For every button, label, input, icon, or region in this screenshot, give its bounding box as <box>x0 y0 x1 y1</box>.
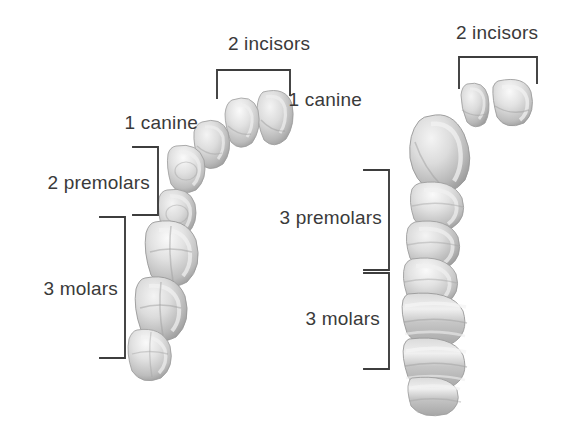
tooth-left-premolar-1 <box>167 145 205 193</box>
tooth-right-incisor-1 <box>461 83 489 127</box>
tooth-right-canine <box>410 115 470 193</box>
label-right-incisors: 2 incisors <box>444 22 550 44</box>
label-left-incisors: 2 incisors <box>216 33 322 55</box>
label-left-molars: 3 molars <box>28 278 118 300</box>
tooth-left-molar-3 <box>128 329 171 380</box>
left-arch-teeth <box>128 91 293 381</box>
label-right-premolars: 3 premolars <box>258 207 382 229</box>
label-right-canine: 1 canine <box>272 89 362 111</box>
tooth-left-incisor-1 <box>225 98 259 147</box>
dentition-diagram: 2 incisors 1 canine 2 premolars 3 molars… <box>0 0 579 421</box>
label-left-canine: 1 canine <box>108 112 198 134</box>
label-left-premolars: 2 premolars <box>26 172 150 194</box>
right-arch-teeth <box>402 79 532 415</box>
tooth-right-incisor-2 <box>493 79 533 125</box>
label-right-molars: 3 molars <box>290 308 380 330</box>
